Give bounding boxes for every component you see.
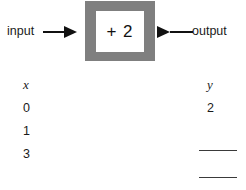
worksheet-page: input + 2 output x y 0 2 1 3 [0, 0, 246, 190]
input-arrow-right-icon [43, 31, 85, 33]
arrow-head [64, 26, 77, 38]
table-cell-x: 3 [23, 148, 30, 161]
function-machine-box: + 2 [85, 1, 155, 61]
table-cell-x: 0 [23, 102, 30, 115]
answer-blank-line[interactable] [199, 150, 237, 151]
output-label: output [192, 25, 227, 38]
table-cell-x: 1 [23, 125, 30, 138]
function-rule-text: + 2 [106, 23, 133, 40]
answer-blank-line[interactable] [199, 177, 237, 178]
input-output-table: x y 0 2 1 3 [0, 78, 246, 190]
table-header-x: x [23, 78, 29, 91]
input-label: input [7, 25, 34, 38]
arrow-head [157, 26, 170, 38]
table-cell-y: 2 [207, 102, 214, 115]
table-header-y: y [207, 78, 213, 91]
arrow-shaft [170, 31, 193, 33]
function-machine-diagram: input + 2 output [0, 0, 246, 62]
output-arrow-right-icon [157, 31, 193, 33]
function-machine-window: + 2 [96, 11, 144, 52]
